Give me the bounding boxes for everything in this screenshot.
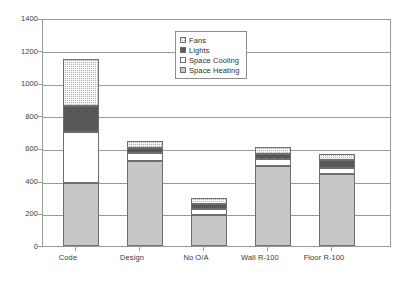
legend-label-space-heating: Space Heating <box>189 66 240 75</box>
legend-item-lights[interactable]: Lights <box>180 45 240 55</box>
bar-design[interactable] <box>127 141 163 246</box>
bar-segment-space-cooling[interactable] <box>255 159 291 166</box>
y-tick-label: 1000 <box>4 80 38 88</box>
bar-segment-lights[interactable] <box>191 204 227 209</box>
x-tick-mark <box>203 247 204 251</box>
x-tick-mark <box>267 247 268 251</box>
bar-segment-space-heating[interactable] <box>191 215 227 246</box>
bar-segment-fans[interactable] <box>127 141 163 148</box>
bar-segment-space-cooling[interactable] <box>63 132 99 183</box>
y-tick-label: 1400 <box>4 15 38 23</box>
legend-swatch-space-heating-icon <box>180 67 186 73</box>
bar-floor-r100[interactable] <box>319 154 355 246</box>
x-tick-label-design: Design <box>100 253 164 262</box>
legend-swatch-fans-icon <box>180 37 186 43</box>
y-tick-label: 1200 <box>4 48 38 56</box>
legend-swatch-space-cooling-icon <box>180 57 186 63</box>
legend-item-space-heating[interactable]: Space Heating <box>180 65 240 75</box>
bar-segment-fans[interactable] <box>319 154 355 160</box>
y-axis: 1400 1200 1000 800 600 400 200 0 <box>0 0 38 285</box>
bar-segment-space-cooling[interactable] <box>127 153 163 161</box>
bar-segment-fans[interactable] <box>191 198 227 204</box>
legend-swatch-lights-icon <box>180 47 186 53</box>
bar-segment-fans[interactable] <box>63 59 99 106</box>
bar-segment-space-cooling[interactable] <box>191 209 227 215</box>
legend-label-fans: Fans <box>189 36 206 45</box>
bar-code[interactable] <box>63 59 99 246</box>
x-tick-label-wall-r100: Wall R-100 <box>228 253 292 262</box>
bar-segment-space-heating[interactable] <box>319 174 355 246</box>
stacked-bar-chart: 1400 1200 1000 800 600 400 200 0 <box>0 0 401 285</box>
bar-segment-space-heating[interactable] <box>255 166 291 246</box>
x-tick-label-no-oa: No O/A <box>164 253 228 262</box>
y-tick-label: 800 <box>4 113 38 121</box>
legend: Fans Lights Space Cooling Space Heating <box>175 31 247 79</box>
legend-item-space-cooling[interactable]: Space Cooling <box>180 55 240 65</box>
bar-segment-space-heating[interactable] <box>127 161 163 246</box>
x-tick-label-floor-r100: Floor R-100 <box>292 253 356 262</box>
x-tick-mark <box>139 247 140 251</box>
bar-segment-lights[interactable] <box>255 154 291 159</box>
y-tick-label: 200 <box>4 210 38 218</box>
x-tick-mark <box>331 247 332 251</box>
legend-label-space-cooling: Space Cooling <box>189 56 239 65</box>
bar-segment-space-cooling[interactable] <box>319 168 355 174</box>
bar-segment-lights[interactable] <box>127 148 163 153</box>
x-tick-mark <box>75 247 76 251</box>
y-tick-label: 400 <box>4 178 38 186</box>
bar-segment-space-heating[interactable] <box>63 183 99 246</box>
legend-item-fans[interactable]: Fans <box>180 35 240 45</box>
bar-segment-fans[interactable] <box>255 147 291 154</box>
x-tick-label-code: Code <box>36 253 100 262</box>
bar-no-oa[interactable] <box>191 198 227 246</box>
bar-wall-r100[interactable] <box>255 147 291 246</box>
y-tick-label: 0 <box>4 243 38 251</box>
legend-label-lights: Lights <box>189 46 210 55</box>
bar-segment-lights[interactable] <box>63 106 99 132</box>
bar-segment-lights[interactable] <box>319 160 355 168</box>
y-tick-label: 600 <box>4 145 38 153</box>
